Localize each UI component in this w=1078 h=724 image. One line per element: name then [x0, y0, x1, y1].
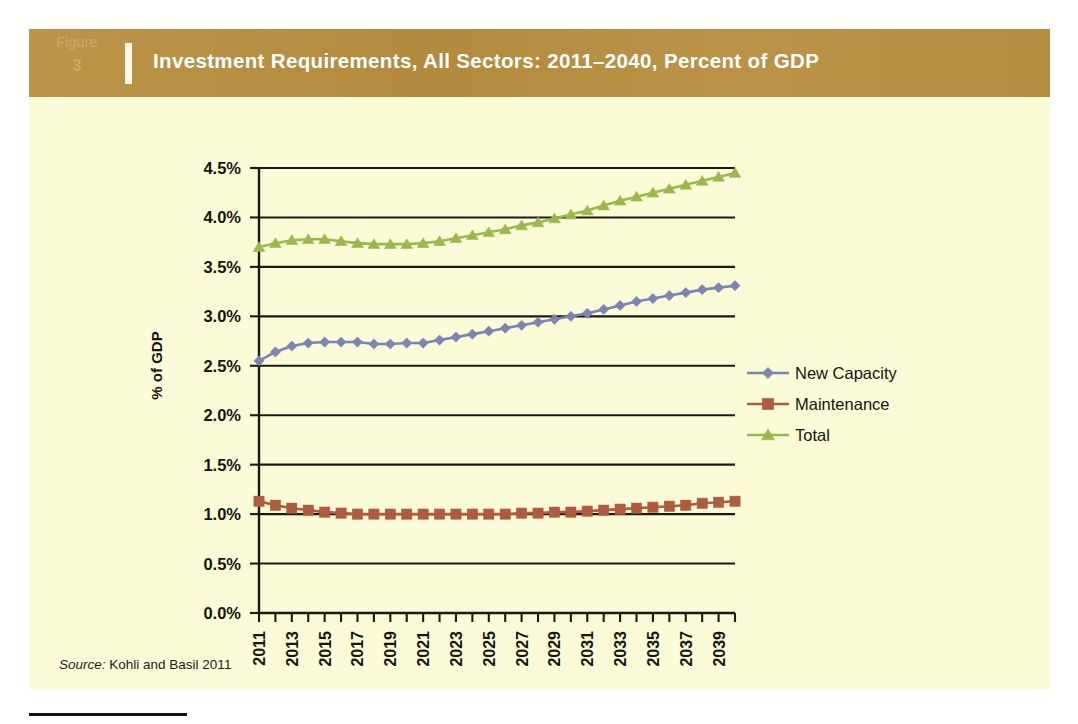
data-point-marker — [336, 508, 346, 518]
data-point-marker — [615, 504, 625, 514]
x-tick-label: 2019 — [382, 631, 399, 667]
source-note: Source: Kohli and Basil 2011 — [59, 657, 231, 672]
data-point-marker — [451, 332, 461, 342]
source-label: Source: — [59, 657, 106, 672]
y-axis-label: % of GDP — [148, 331, 165, 399]
data-point-marker — [484, 509, 494, 519]
data-point-marker — [664, 501, 674, 511]
line-chart: 0.0%0.5%1.0%1.5%2.0%2.5%3.0%3.5%4.0%4.5%… — [29, 97, 1050, 689]
source-text: Kohli and Basil 2011 — [109, 657, 231, 672]
data-point-marker — [730, 496, 740, 506]
figure-panel: Figure 3 Investment Requirements, All Se… — [29, 29, 1050, 689]
x-tick-label: 2037 — [678, 631, 695, 667]
chart-area: 0.0%0.5%1.0%1.5%2.0%2.5%3.0%3.5%4.0%4.5%… — [29, 97, 1050, 689]
x-tick-label: 2011 — [251, 631, 268, 666]
series-total — [253, 168, 741, 252]
y-tick-label: 1.0% — [203, 505, 241, 523]
data-point-marker — [451, 509, 461, 519]
figure-tag-number: 3 — [43, 58, 111, 74]
y-tick-label: 2.5% — [203, 357, 241, 375]
x-tick-label: 2021 — [415, 631, 432, 667]
data-point-marker — [582, 506, 592, 516]
x-tick-label: 2033 — [612, 631, 629, 667]
data-point-marker — [352, 337, 362, 347]
data-point-marker — [434, 509, 444, 519]
y-tick-label: 0.5% — [203, 555, 241, 573]
y-tick-label: 4.5% — [203, 159, 241, 177]
x-tick-label: 2017 — [349, 631, 366, 667]
data-point-marker — [467, 329, 477, 339]
data-point-marker — [303, 338, 313, 348]
data-point-marker — [697, 285, 707, 295]
data-point-marker — [517, 320, 527, 330]
figure-header-band: Figure 3 Investment Requirements, All Se… — [29, 29, 1050, 97]
series-line — [259, 286, 735, 361]
figure-tag-word: Figure — [43, 35, 111, 49]
y-tick-label: 1.5% — [203, 456, 241, 474]
data-point-marker — [385, 339, 395, 349]
y-tick-label: 0.0% — [203, 604, 241, 622]
y-tick-label: 2.0% — [203, 406, 241, 424]
legend-item-total[interactable]: Total — [747, 426, 830, 444]
header-divider — [125, 43, 132, 84]
series-line — [259, 173, 735, 247]
data-point-marker — [303, 505, 313, 515]
gridlines — [259, 168, 735, 613]
bottom-rule — [29, 713, 187, 716]
data-point-marker — [287, 503, 297, 513]
x-tick-label: 2023 — [448, 631, 465, 667]
data-point-marker — [730, 281, 740, 291]
y-tick-label: 3.5% — [203, 258, 241, 276]
x-tick-label: 2013 — [284, 631, 301, 667]
data-point-marker — [517, 508, 527, 518]
data-point-marker — [418, 338, 428, 348]
data-point-marker — [369, 509, 379, 519]
data-point-marker — [418, 509, 428, 519]
legend-label: Total — [795, 426, 830, 444]
axis-lines — [259, 168, 735, 613]
data-point-marker — [648, 293, 658, 303]
data-point-marker — [664, 290, 674, 300]
data-point-marker — [713, 497, 723, 507]
chart-legend: New CapacityMaintenanceTotal — [747, 364, 898, 444]
x-tick-label: 2035 — [645, 631, 662, 667]
legend-item-maintenance[interactable]: Maintenance — [747, 395, 889, 413]
data-point-marker — [500, 323, 510, 333]
data-point-marker — [681, 288, 691, 298]
data-point-marker — [270, 500, 280, 510]
legend-label: Maintenance — [795, 395, 889, 413]
x-axis-ticks: 2011201320152017201920212023202520272029… — [251, 613, 735, 667]
data-point-marker — [631, 503, 641, 513]
series-new-capacity — [254, 281, 740, 366]
y-axis-title: % of GDP — [148, 331, 165, 399]
x-tick-label: 2025 — [481, 631, 498, 667]
series-line — [259, 501, 735, 514]
data-point-marker — [402, 338, 412, 348]
legend-label: New Capacity — [795, 364, 898, 382]
x-tick-label: 2039 — [711, 631, 728, 667]
data-point-marker — [484, 326, 494, 336]
figure-title: Investment Requirements, All Sectors: 20… — [153, 49, 819, 73]
x-tick-label: 2031 — [579, 631, 596, 667]
data-point-marker — [385, 509, 395, 519]
data-point-marker — [336, 337, 346, 347]
data-point-marker — [254, 356, 264, 366]
data-point-marker — [648, 502, 658, 512]
data-point-marker — [599, 304, 609, 314]
x-tick-label: 2027 — [514, 631, 531, 667]
data-point-marker — [762, 367, 773, 378]
data-point-marker — [566, 507, 576, 517]
data-point-marker — [467, 509, 477, 519]
data-point-marker — [402, 509, 412, 519]
data-point-marker — [713, 283, 723, 293]
data-point-marker — [254, 496, 264, 506]
legend-item-new-capacity[interactable]: New Capacity — [747, 364, 898, 382]
data-series — [253, 168, 741, 520]
data-point-marker — [533, 508, 543, 518]
y-axis-ticks: 0.0%0.5%1.0%1.5%2.0%2.5%3.0%3.5%4.0%4.5% — [203, 159, 259, 622]
data-point-marker — [697, 498, 707, 508]
y-tick-label: 4.0% — [203, 208, 241, 226]
data-point-marker — [352, 509, 362, 519]
data-point-marker — [631, 296, 641, 306]
data-point-marker — [434, 335, 444, 345]
